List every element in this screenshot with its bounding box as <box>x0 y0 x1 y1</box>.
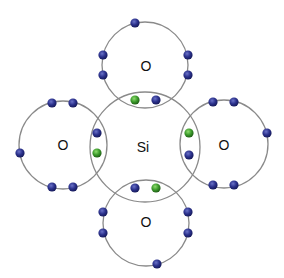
oxygen-electron-dot <box>68 98 77 107</box>
oxygen-electron-dot <box>229 180 238 189</box>
oxygen-electron-dot <box>184 150 193 159</box>
atom-label-o-left: O <box>58 137 69 153</box>
oxygen-electron-dot <box>68 182 77 191</box>
silicon-electron-dot <box>184 128 193 137</box>
oxygen-electron-dot <box>183 207 192 216</box>
oxygen-electron-dot <box>151 95 160 104</box>
oxygen-electron-dot <box>130 18 139 27</box>
oxygen-electron-dot <box>183 50 192 59</box>
atom-label-o-right: O <box>219 137 230 153</box>
oxygen-electron-dot <box>98 70 107 79</box>
oxygen-electron-dot <box>183 70 192 79</box>
oxygen-electron-dot <box>130 183 139 192</box>
oxygen-electron-dot <box>229 97 238 106</box>
oxygen-electron-dot <box>98 228 107 237</box>
oxygen-electron-dot <box>152 259 161 268</box>
atom-labels: SiOOOO <box>58 58 230 230</box>
sio4-electron-diagram: SiOOOO <box>0 0 284 278</box>
oxygen-electron-dot <box>92 128 101 137</box>
oxygen-electron-dot <box>15 148 24 157</box>
atom-label-o-bottom: O <box>141 214 152 230</box>
oxygen-electron-dot <box>47 98 56 107</box>
oxygen-electron-dot <box>262 128 271 137</box>
silicon-electron-dot <box>92 148 101 157</box>
oxygen-electron-dot <box>47 182 56 191</box>
oxygen-electron-dot <box>208 97 217 106</box>
silicon-electron-dot <box>151 183 160 192</box>
oxygen-electron-dot <box>183 228 192 237</box>
silicon-electron-dot <box>130 95 139 104</box>
oxygen-electron-dot <box>208 180 217 189</box>
atom-label-o-top: O <box>141 58 152 74</box>
atom-label-si: Si <box>137 139 149 155</box>
oxygen-electron-dot <box>98 50 107 59</box>
oxygen-electron-dot <box>98 207 107 216</box>
